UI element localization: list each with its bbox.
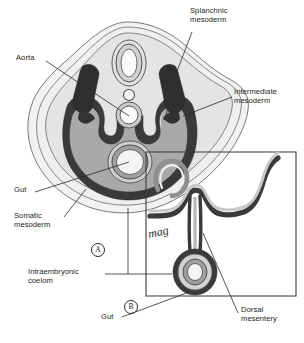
neural-tube-lumen xyxy=(121,49,137,77)
notochord xyxy=(124,90,135,101)
dorsal-mesentery-left-wall xyxy=(189,196,190,252)
panel-a-drawing xyxy=(28,22,249,213)
label-intermediate-mesoderm: Intermediate mesoderm xyxy=(234,87,277,105)
label-dorsal-mesentery: Dorsal mesentery xyxy=(241,305,277,323)
dorsal-mesentery-right-wall xyxy=(200,196,201,252)
label-gut-b: Gut xyxy=(101,312,113,321)
dorsal-aorta-lumen xyxy=(120,106,138,124)
label-intraembryonic-coelom: Intraembryonic coelom xyxy=(28,267,79,285)
label-somatic-mesoderm: Somatic mesoderm xyxy=(14,211,50,229)
artist-signature: mag xyxy=(147,223,170,241)
label-splanchnic-mesoderm: Splanchnic mesoderm xyxy=(190,6,228,24)
label-aorta: Aorta xyxy=(16,53,34,62)
label-gut-a: Gut xyxy=(14,185,26,194)
embryo-cross-section-figure: mag xyxy=(0,0,304,343)
gut-tube-lumen xyxy=(117,150,144,175)
panel-b-gut-lumen xyxy=(188,264,203,281)
panel-marker-b: B xyxy=(124,300,138,314)
panel-marker-a: A xyxy=(91,243,105,257)
